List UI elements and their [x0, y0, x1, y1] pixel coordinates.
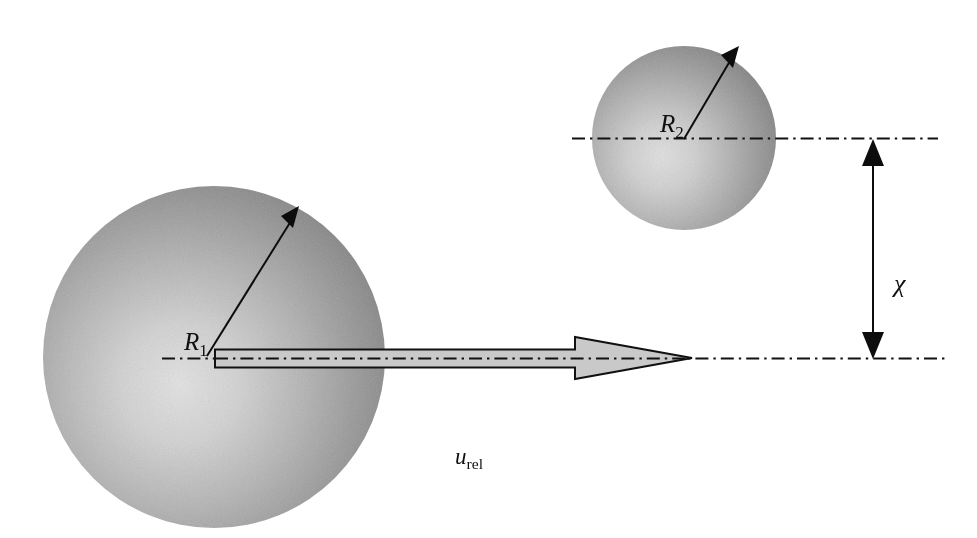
diagram-canvas: R1 R2 urel χ — [0, 0, 977, 538]
impact-parameter-label: χ — [891, 269, 906, 298]
collision-geometry-figure: R1 R2 urel χ — [0, 0, 977, 538]
